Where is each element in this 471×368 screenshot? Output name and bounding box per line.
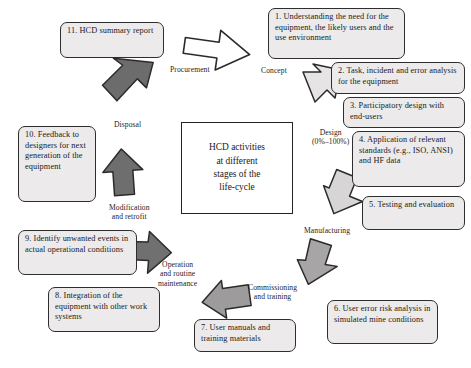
- node-8-integration-of-equipment[interactable]: 8. Integration of the equipment with oth…: [48, 287, 160, 332]
- node-10-feedback-to-designers[interactable]: 10. Feedback to designers for next gener…: [18, 126, 96, 202]
- label-commissioning: Commissioning and training: [248, 283, 297, 302]
- label-design: Design (0%–100%): [312, 128, 349, 147]
- node-9-identify-unwanted-events[interactable]: 9. Identify unwanted events in actual op…: [18, 230, 137, 275]
- node-4-application-of-standards[interactable]: 4. Application of relevant standards (e.…: [352, 131, 465, 187]
- node-6-user-error-risk-analysis[interactable]: 6. User error risk analysis in simulated…: [327, 300, 438, 344]
- node-3-participatory-design[interactable]: 3. Participatory design with end-users: [343, 97, 465, 128]
- arrow-modification-to-disposal-icon: [101, 147, 149, 201]
- center-line-4: life-cycle: [209, 181, 265, 194]
- node-2-task-incident-error-analysis[interactable]: 2. Task, incident and error analysis for…: [331, 62, 465, 94]
- node-7-user-manuals-training[interactable]: 7. User manuals and training materials: [194, 319, 296, 352]
- hcd-lifecycle-diagram: HCD activities at different stages of th…: [0, 0, 471, 368]
- label-manufacturing: Manufacturing: [304, 226, 350, 235]
- center-line-3: stages of the: [209, 168, 265, 181]
- arrow-manufacturing-to-commissioning-icon: [293, 240, 341, 290]
- node-11-hcd-summary-report[interactable]: 11. HCD summary report: [60, 22, 164, 58]
- center-title-box: HCD activities at different stages of th…: [181, 122, 293, 214]
- label-procurement: Procurement: [170, 65, 210, 74]
- label-modification: Modification and retrofit: [109, 203, 150, 222]
- arrow-commissioning-to-operation-icon: [198, 278, 254, 322]
- label-operation: Operation and routine maintenance: [158, 260, 197, 288]
- arrow-disposal-to-procurement-icon: [101, 58, 157, 110]
- node-1-understanding-need[interactable]: 1. Understanding the need for the equipm…: [268, 8, 405, 59]
- label-concept: Concept: [261, 66, 287, 75]
- center-line-2: at different: [209, 155, 265, 168]
- node-5-testing-and-evaluation[interactable]: 5. Testing and evaluation: [362, 196, 465, 230]
- label-disposal: Disposal: [114, 120, 141, 129]
- center-line-1: HCD activities: [209, 141, 265, 154]
